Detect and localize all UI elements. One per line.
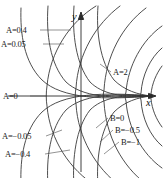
label-b-minus-05: B=−0.5	[115, 126, 140, 135]
x-axis-label: x	[146, 98, 151, 109]
y-axis-label: y	[72, 12, 77, 23]
leader-B-m1	[104, 142, 119, 154]
label-a-005: A=0.05	[1, 40, 26, 49]
label-b-0: B=0	[110, 114, 124, 123]
y-axis-arrowhead	[78, 12, 83, 20]
curve-A-04	[48, 6, 152, 97]
label-a-0: A=0	[3, 92, 18, 101]
curve-A-2	[21, 8, 152, 98]
label-a-minus-04: A=−0.4	[5, 150, 30, 159]
label-b-minus-1: B=−1	[121, 138, 140, 147]
label-a-04: A=0.4	[6, 26, 27, 35]
curve-A-005-mirror	[74, 96, 152, 178]
curve-A-outer-top	[25, 12, 156, 98]
curve-family-A	[21, 6, 156, 178]
curve-B-outer	[46, 6, 96, 178]
label-a-2: A=2	[113, 68, 128, 77]
parabola-level-curve-figure: A=0.4 A=0.05 A=0 A=2 A=−0.05 A=−0.4 B=0 …	[0, 0, 163, 178]
label-a-minus-005: A=−0.05	[2, 132, 31, 141]
leader-B-0	[96, 118, 108, 128]
